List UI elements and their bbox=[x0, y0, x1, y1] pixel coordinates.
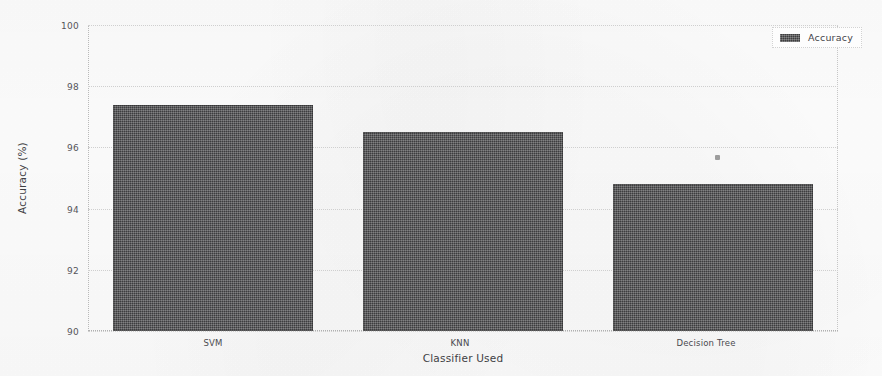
legend[interactable]: Accuracy bbox=[772, 27, 862, 48]
right-spine bbox=[837, 25, 838, 331]
y-tick-label-100: 100 bbox=[61, 21, 79, 31]
legend-label-accuracy: Accuracy bbox=[808, 32, 853, 43]
gridline-98: 98 bbox=[88, 86, 838, 87]
y-tick-label-94: 94 bbox=[67, 205, 79, 215]
plot-area: 100 98 96 94 92 90 bbox=[88, 25, 838, 331]
x-tick-label-knn: KNN bbox=[451, 338, 470, 348]
gridline-90: 90 bbox=[88, 331, 838, 332]
bar-chart-figure: Accuracy (%) 100 98 96 94 92 90 SVM KNN bbox=[0, 0, 882, 376]
bar-svm[interactable] bbox=[113, 105, 313, 331]
y-axis-line bbox=[88, 25, 89, 331]
scan-speck-artifact bbox=[715, 155, 720, 160]
x-axis-title: Classifier Used bbox=[88, 352, 838, 364]
legend-swatch-accuracy bbox=[780, 34, 800, 42]
bar-decision-tree[interactable] bbox=[613, 184, 813, 331]
x-tick-label-svm: SVM bbox=[203, 338, 222, 348]
y-tick-label-96: 96 bbox=[67, 143, 79, 153]
y-tick-label-90: 90 bbox=[67, 327, 79, 337]
y-axis-title: Accuracy (%) bbox=[16, 142, 28, 214]
y-tick-label-98: 98 bbox=[67, 82, 79, 92]
bar-knn[interactable] bbox=[363, 132, 563, 331]
x-tick-label-decision-tree: Decision Tree bbox=[676, 338, 735, 348]
gridline-100: 100 bbox=[88, 25, 838, 26]
y-tick-label-92: 92 bbox=[67, 266, 79, 276]
